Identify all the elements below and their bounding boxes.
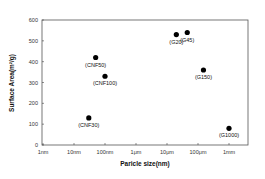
plot-frame [42,20,248,145]
x-tick-label: 100nm [97,149,114,155]
y-tick-label: 100 [29,121,38,127]
data-point [93,55,98,60]
point-label: (G45) [180,37,194,43]
data-point [226,126,231,131]
x-tick-label: 10μm [160,149,174,155]
scatter-chart: 0100200300400500600 1nm10nm100nm1μm10μm1… [0,0,265,179]
y-tick-label: 0 [35,142,38,148]
y-tick-label: 500 [29,38,38,44]
point-label: (G150) [195,74,212,80]
x-tick-label: 1μm [131,149,142,155]
y-tick-label: 300 [29,80,38,86]
data-points: (CNF30)(CNF50)(CNF100)(G20)(G45)(G150)(G… [78,30,239,138]
data-point [174,32,179,37]
point-label: (CNF30) [78,122,99,128]
x-tick-label: 1mm [223,149,236,155]
y-tick-label: 200 [29,100,38,106]
data-point [86,115,91,120]
data-point [102,74,107,79]
data-point [201,67,206,72]
point-label: (CNF100) [93,80,117,86]
y-tick-label: 600 [29,17,38,23]
data-point [185,30,190,35]
x-axis-title: Paricle size(nm) [120,160,170,168]
x-tick-label: 100μm [190,149,207,155]
plot-border [42,20,248,145]
x-tick-label: 1nm [38,149,49,155]
point-label: (G1000) [219,132,239,138]
x-tick-label: 10nm [67,149,81,155]
point-label: (CNF50) [85,62,106,68]
y-tick-label: 400 [29,59,38,65]
y-axis-title: Surface Area(m²/g) [8,54,16,112]
